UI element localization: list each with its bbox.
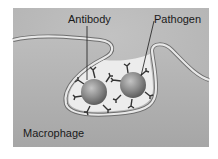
label-antibody: Antibody: [68, 14, 111, 25]
pathogen-2: [120, 72, 146, 98]
phagocytosis-diagram: Antibody Pathogen Macrophage: [0, 0, 218, 159]
pathogen-1: [81, 79, 107, 105]
label-macrophage: Macrophage: [23, 128, 84, 139]
label-pathogen: Pathogen: [154, 14, 201, 25]
